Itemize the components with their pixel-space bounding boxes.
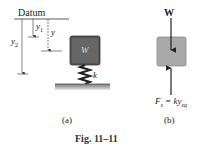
datum-label: Datum xyxy=(18,8,45,18)
force-equation: Fs = kyeq xyxy=(155,97,187,108)
ground xyxy=(55,84,110,90)
y2-subscript: 2 xyxy=(15,42,18,48)
figure-caption: Fig. 11–11 xyxy=(75,134,118,144)
force-eq-text: = ky xyxy=(163,96,182,106)
force-eq-subscript: eq xyxy=(181,102,187,108)
y1-label: y1 xyxy=(36,22,43,33)
weight-label: W xyxy=(164,8,174,18)
y1-subscript: 1 xyxy=(40,27,43,33)
spring-k-label: k xyxy=(93,71,97,80)
panel-b-label: (b) xyxy=(164,116,175,125)
y-label: y xyxy=(51,28,55,37)
figure-11-11: Datum y1 y y2 W k W Fs = kyeq (a) (b) Fi… xyxy=(0,0,200,161)
y2-label: y2 xyxy=(11,37,18,48)
panel-a-label: (a) xyxy=(62,116,72,125)
spring xyxy=(80,65,90,84)
block-w-label: W xyxy=(81,46,89,55)
